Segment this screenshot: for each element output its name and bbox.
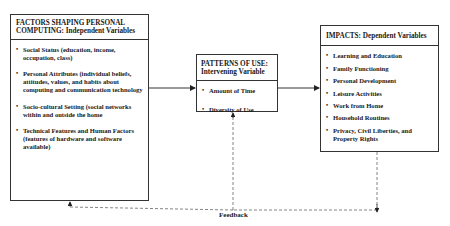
list-item: Personal Development xyxy=(326,77,433,85)
dependent-variables-title: IMPACTS: Dependent Variables xyxy=(321,26,438,46)
independent-variables-list: Social Status (education, income, occupa… xyxy=(11,40,148,151)
list-item: Family Functioning xyxy=(326,65,433,73)
intervening-variable-list: Amount of Time Diversity of Use xyxy=(197,81,277,114)
feedback-label: Feedback xyxy=(219,211,248,219)
intervening-variable-title: PATTERNS OF USE: Intervening Variable xyxy=(197,55,277,81)
list-item: Diversity of Use xyxy=(202,106,272,114)
list-item: Learning and Education xyxy=(326,52,433,60)
list-item: Household Routines xyxy=(326,114,433,122)
list-item: Work from Home xyxy=(326,102,433,110)
independent-variables-title: FACTORS SHAPING PERSONAL COMPUTING: Inde… xyxy=(11,15,148,40)
list-item: Amount of Time xyxy=(202,87,272,95)
list-item: Social Status (education, income, occupa… xyxy=(16,46,143,62)
independent-variables-box: FACTORS SHAPING PERSONAL COMPUTING: Inde… xyxy=(10,14,149,201)
list-item: Personal Attributes (individual beliefs,… xyxy=(16,70,143,93)
dependent-variables-list: Learning and Education Family Functionin… xyxy=(321,46,438,142)
dependent-variables-box: IMPACTS: Dependent Variables Learning an… xyxy=(320,25,439,152)
list-item: Technical Features and Human Factors (fe… xyxy=(16,127,143,150)
list-item: Leisure Activities xyxy=(326,90,433,98)
list-item: Socio-cultural Setting (social networks … xyxy=(16,103,143,119)
intervening-variable-box: PATTERNS OF USE: Intervening Variable Am… xyxy=(196,54,278,112)
list-item: Privacy, Civil Liberties, and Property R… xyxy=(326,127,433,143)
